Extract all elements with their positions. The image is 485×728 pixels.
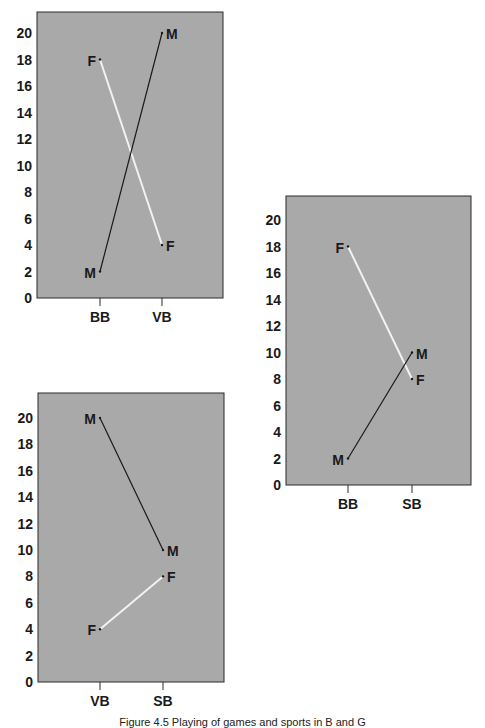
y-tick-label: 6 <box>25 595 33 611</box>
point-label: F <box>335 240 344 256</box>
y-tick-label: 0 <box>25 674 33 690</box>
chart-vb-sb: 02468101214161820VBSBMMFF <box>17 393 224 709</box>
y-tick-label: 14 <box>17 489 33 505</box>
y-tick-label: 16 <box>16 78 32 94</box>
y-tick-label: 12 <box>16 131 32 147</box>
y-tick-label: 2 <box>25 648 33 664</box>
data-point <box>347 245 349 247</box>
figure-caption: Figure 4.5 Playing of games and sports i… <box>0 716 485 728</box>
x-tick-label: SB <box>153 693 172 709</box>
x-tick-label: SB <box>402 496 421 512</box>
data-point <box>411 378 413 380</box>
x-tick-label: BB <box>90 309 110 325</box>
y-tick-label: 10 <box>265 345 281 361</box>
y-tick-label: 16 <box>17 463 33 479</box>
y-tick-label: 4 <box>25 621 33 637</box>
chart-bb-sb: 02468101214161820BBSBFFMM <box>265 196 471 512</box>
x-tick-label: VB <box>90 693 109 709</box>
y-tick-label: 6 <box>273 398 281 414</box>
point-label: F <box>416 372 425 388</box>
y-tick-label: 2 <box>24 264 32 280</box>
y-tick-label: 18 <box>16 52 32 68</box>
point-label: M <box>332 452 344 468</box>
point-label: F <box>166 238 175 254</box>
x-tick-label: BB <box>338 496 358 512</box>
plot-area <box>286 196 471 485</box>
data-point <box>99 270 101 272</box>
data-point <box>161 32 163 34</box>
data-point <box>99 58 101 60</box>
data-point <box>162 549 164 551</box>
data-point <box>347 457 349 459</box>
point-label: F <box>167 569 176 585</box>
y-tick-label: 20 <box>17 410 33 426</box>
data-point <box>99 417 101 419</box>
y-tick-label: 8 <box>25 568 33 584</box>
point-label: M <box>84 411 96 427</box>
y-tick-label: 4 <box>273 424 281 440</box>
y-tick-label: 16 <box>265 265 281 281</box>
data-point <box>99 628 101 630</box>
y-tick-label: 6 <box>24 211 32 227</box>
point-label: M <box>416 346 428 362</box>
y-tick-label: 14 <box>265 292 281 308</box>
y-tick-label: 12 <box>17 516 33 532</box>
y-tick-label: 20 <box>265 212 281 228</box>
y-tick-label: 10 <box>17 542 33 558</box>
y-tick-label: 18 <box>17 436 33 452</box>
y-tick-label: 8 <box>24 184 32 200</box>
point-label: M <box>84 265 96 281</box>
charts-canvas: 02468101214161820BBVBFFMM024681012141618… <box>0 0 485 716</box>
y-tick-label: 4 <box>24 237 32 253</box>
chart-bb-vb: 02468101214161820BBVBFFMM <box>16 12 223 325</box>
data-point <box>411 351 413 353</box>
y-tick-label: 0 <box>24 290 32 306</box>
y-tick-label: 20 <box>16 25 32 41</box>
y-tick-label: 0 <box>273 477 281 493</box>
y-tick-label: 8 <box>273 371 281 387</box>
y-tick-label: 18 <box>265 239 281 255</box>
y-tick-label: 14 <box>16 105 32 121</box>
y-tick-label: 12 <box>265 318 281 334</box>
point-label: M <box>167 543 179 559</box>
point-label: F <box>87 622 96 638</box>
point-label: F <box>87 53 96 69</box>
data-point <box>162 575 164 577</box>
plot-area <box>38 393 224 682</box>
y-tick-label: 10 <box>16 158 32 174</box>
point-label: M <box>166 26 178 42</box>
x-tick-label: VB <box>152 309 171 325</box>
y-tick-label: 2 <box>273 451 281 467</box>
data-point <box>161 244 163 246</box>
